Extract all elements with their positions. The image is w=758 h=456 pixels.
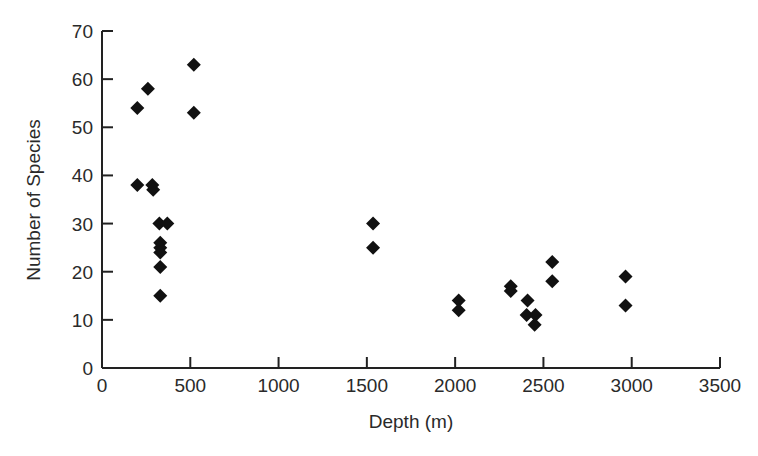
x-tick-label: 2000: [434, 375, 476, 396]
data-points: [130, 58, 632, 332]
data-point-diamond: [521, 294, 535, 308]
y-tick-label: 70: [72, 21, 93, 42]
y-tick-label: 40: [72, 165, 93, 186]
data-point-diamond: [130, 178, 144, 192]
y-tick-label: 30: [72, 214, 93, 235]
data-point-diamond: [187, 106, 201, 120]
y-tick-label: 20: [72, 262, 93, 283]
y-tick-label: 60: [72, 69, 93, 90]
data-point-diamond: [619, 270, 633, 284]
y-axis: 010203040506070: [72, 21, 113, 379]
data-point-diamond: [187, 58, 201, 72]
y-axis-label: Number of Species: [23, 119, 44, 281]
x-tick-label: 0: [97, 375, 108, 396]
x-axis: 0500100015002000250030003500: [97, 357, 741, 396]
y-tick-label: 10: [72, 310, 93, 331]
x-tick-label: 3500: [699, 375, 741, 396]
x-tick-label: 3000: [611, 375, 653, 396]
y-tick-label: 0: [82, 358, 93, 379]
data-point-diamond: [153, 260, 167, 274]
x-tick-label: 500: [174, 375, 206, 396]
data-point-diamond: [160, 217, 174, 231]
x-tick-label: 1000: [257, 375, 299, 396]
data-point-diamond: [141, 82, 155, 96]
y-tick-label: 50: [72, 117, 93, 138]
data-point-diamond: [153, 289, 167, 303]
data-point-diamond: [130, 101, 144, 115]
data-point-diamond: [528, 318, 542, 332]
data-point-diamond: [366, 241, 380, 255]
data-point-diamond: [619, 298, 633, 312]
data-point-diamond: [545, 255, 559, 269]
x-tick-label: 1500: [346, 375, 388, 396]
x-tick-label: 2500: [522, 375, 564, 396]
scatter-chart: 010203040506070 050010001500200025003000…: [0, 0, 758, 456]
data-point-diamond: [366, 217, 380, 231]
data-point-diamond: [545, 274, 559, 288]
x-axis-label: Depth (m): [369, 411, 453, 432]
data-point-diamond: [452, 303, 466, 317]
